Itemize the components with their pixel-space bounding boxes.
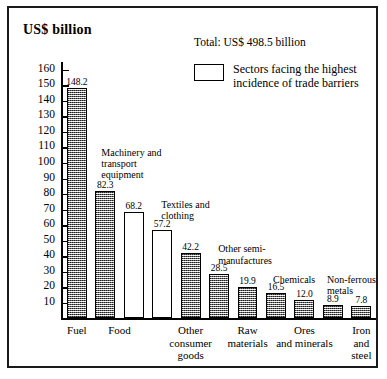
bar-value-label: 19.9 [239,276,256,286]
bar: 8.9 [323,305,343,319]
bar-value-label: 42.2 [182,242,199,252]
series-annotation: Machinery and transport equipment [101,147,161,181]
bar: 82.3 [95,191,115,319]
y-axis-tick-label: 140 [38,93,55,105]
series-annotation: Non-ferrous metals [327,274,376,297]
bar: 12.0 [294,300,314,319]
x-axis-label: Raw materials [227,324,267,349]
x-axis-label: Food [108,324,131,337]
bar: 57.2 [152,230,172,319]
bar: 148.2 [67,88,87,318]
y-axis-title: US$ billion [23,22,92,38]
y-axis-tick-label: 80 [44,186,56,198]
y-axis-tick-label: 60 [44,217,56,229]
bar-value-label: 82.3 [97,180,114,190]
bar-value-label: 148.2 [66,77,87,87]
x-axis-label: Iron and steel [351,324,371,362]
y-axis-tick-label: 90 [44,171,56,183]
y-axis-tick-label: 40 [44,248,56,260]
y-axis-tick-label: 120 [38,124,55,136]
y-axis-tick-label: 130 [38,108,55,120]
bar-value-label: 68.2 [125,201,142,211]
x-axis-label: Other consumer goods [169,324,212,362]
bar: 7.8 [351,306,371,318]
x-axis-line [61,318,376,320]
series-annotation: Chemicals [273,274,315,285]
y-axis-tick-label: 50 [44,233,56,245]
x-axis-labels: FuelFoodOther consumer goodsRaw material… [61,324,376,372]
y-axis-tick-label: 150 [38,77,55,89]
bar: 19.9 [238,287,258,318]
x-axis-label: Fuel [67,324,87,337]
series-annotation: Other semi- manufactures [218,243,272,266]
chart-frame: US$ billion Total: US$ 498.5 billion Sec… [7,6,378,368]
y-axis-tick-label: 100 [38,155,55,167]
y-axis-tick-label: 70 [44,202,56,214]
y-axis-tick-label: 30 [44,264,56,276]
bar: 68.2 [124,212,144,318]
plot-area: 102030405060708090100110120130140150160 … [61,62,376,320]
bar-value-label: 12.0 [296,289,313,299]
y-axis-tick-label: 160 [38,62,55,74]
y-axis-tick-label: 110 [38,139,55,151]
y-axis-tick-label: 20 [44,279,56,291]
legend-total-label: Total: US$ 498.5 billion [194,36,374,48]
y-axis-tick-label: 10 [44,295,56,307]
bar-value-label: 7.8 [355,295,367,305]
series-annotation: Textiles and clothing [161,199,209,222]
x-axis-label: Ores and minerals [276,324,333,349]
bar: 28.5 [209,274,229,318]
bar: 16.5 [266,293,286,319]
bar: 42.2 [181,253,201,319]
